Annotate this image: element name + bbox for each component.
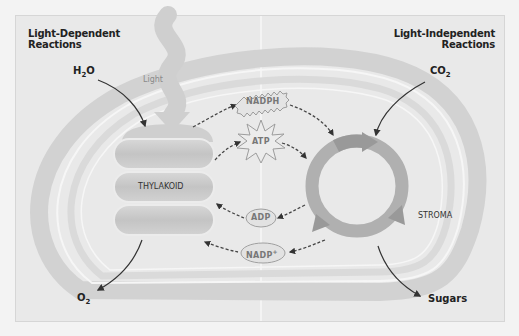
label-stroma: STROMA (418, 211, 452, 220)
dashed-arrow-nadph-to-cycle (290, 105, 333, 135)
dashed-arrow-to-atp (215, 142, 240, 160)
label-atp: ATP (252, 137, 270, 146)
dashed-arrow-cycle-to-nadp (290, 240, 325, 252)
heading-left-line2: Reactions (28, 39, 120, 50)
heading-left-line1: Light-Dependent (28, 28, 120, 39)
label-thylakoid: THYLAKOID (138, 182, 184, 191)
dashed-arrow-atp-to-cycle (282, 143, 306, 158)
label-light: Light (143, 75, 163, 84)
heading-right-line2: Reactions (394, 39, 495, 50)
dashed-arrow-nadp-to-thylakoid (205, 242, 238, 252)
calvin-cycle (312, 132, 405, 232)
dashed-arrow-cycle-to-adp (278, 205, 305, 218)
label-o2: O2 (77, 292, 90, 306)
label-adp: ADP (251, 213, 271, 222)
label-co2: CO2 (430, 65, 451, 79)
label-h2o: H2O (73, 65, 95, 79)
photosynthesis-diagram (0, 0, 519, 336)
label-sugars: Sugars (428, 293, 467, 304)
thylakoid-stack (114, 124, 214, 235)
label-nadp-plus: NADP+ (246, 248, 278, 260)
heading-right-line1: Light-Independent (394, 28, 495, 39)
dashed-arrow-to-nadph (193, 105, 236, 127)
heading-light-dependent: Light-Dependent Reactions (28, 28, 120, 50)
label-nadph: NADPH (246, 97, 280, 106)
heading-light-independent: Light-Independent Reactions (394, 28, 495, 50)
dashed-arrow-adp-to-thylakoid (217, 204, 244, 218)
